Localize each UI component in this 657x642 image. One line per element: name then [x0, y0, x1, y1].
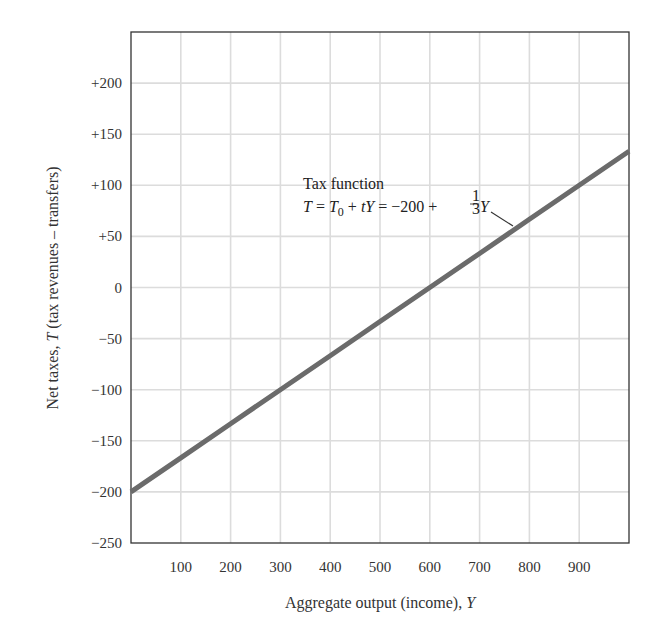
- annotation-equation: T = T0 + tY = −200 +: [303, 198, 437, 219]
- y-axis-ticks: +200+150+100+500−50−100−150−200−250: [91, 75, 122, 551]
- x-tick-label: 200: [219, 559, 242, 575]
- y-tick-label: +50: [99, 228, 122, 244]
- y-tick-label: −100: [91, 382, 122, 398]
- x-tick-label: 800: [518, 559, 541, 575]
- x-tick-label: 100: [170, 559, 193, 575]
- annotation-title: Tax function: [303, 175, 384, 192]
- y-axis-label: Net taxes, T (tax revenues – transfers): [44, 166, 62, 409]
- x-tick-label: 500: [369, 559, 392, 575]
- gridlines: [131, 32, 629, 543]
- y-tick-label: +200: [91, 75, 122, 91]
- y-tick-label: −50: [99, 331, 122, 347]
- y-tick-label: −150: [91, 433, 122, 449]
- y-tick-label: +150: [91, 126, 122, 142]
- tax-function-chart: +200+150+100+500−50−100−150−200−250 1002…: [0, 0, 657, 642]
- y-tick-label: −250: [91, 535, 122, 551]
- y-tick-label: 0: [115, 280, 123, 296]
- fraction-denominator: 3: [472, 200, 480, 217]
- y-tick-label: +100: [91, 177, 122, 193]
- x-tick-label: 300: [269, 559, 292, 575]
- x-axis-ticks: 100200300400500600700800900: [170, 559, 591, 575]
- y-tick-label: −200: [91, 484, 122, 500]
- x-tick-label: 700: [468, 559, 491, 575]
- annotation-leader-line: [491, 212, 513, 226]
- x-axis-label: Aggregate output (income), Y: [285, 594, 477, 612]
- x-tick-label: 600: [419, 559, 442, 575]
- x-tick-label: 900: [568, 559, 591, 575]
- annotation-equation-Y: Y: [480, 198, 491, 215]
- x-tick-label: 400: [319, 559, 342, 575]
